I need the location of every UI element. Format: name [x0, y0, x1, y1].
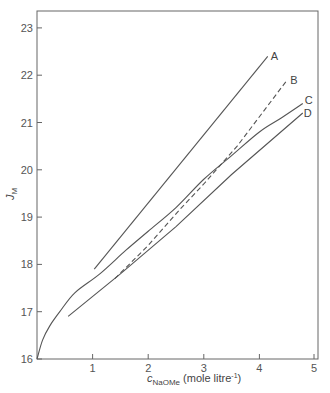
y-tick-label: 19 — [21, 211, 33, 223]
x-axis-title: cNaOMe(mole litre-1) — [147, 372, 241, 387]
series-line-b — [115, 80, 287, 279]
series-lines — [37, 56, 303, 359]
series-label-b: B — [290, 74, 297, 86]
series-label-d: D — [304, 107, 312, 119]
y-tick-label: 23 — [21, 22, 33, 34]
series-line-d — [68, 113, 303, 316]
y-axis-title: JM — [4, 188, 19, 202]
series-labels: ABCD — [271, 50, 313, 119]
y-tick-label: 18 — [21, 258, 33, 270]
y-tick-label: 20 — [21, 164, 33, 176]
series-label-c: C — [305, 94, 313, 106]
series-line-a — [94, 56, 267, 269]
y-tick-label: 17 — [21, 306, 33, 318]
y-tick-label: 22 — [21, 69, 33, 81]
x-tick-label: 4 — [256, 362, 262, 374]
y-tick-label: 21 — [21, 117, 33, 129]
y-axis-ticks: 1617181920212223 — [21, 22, 42, 365]
x-tick-label: 1 — [90, 362, 96, 374]
chart: 1617181920212223 12345 ABCD cNaOMe(mole … — [0, 0, 330, 393]
x-tick-label: 5 — [311, 362, 317, 374]
series-label-a: A — [271, 50, 279, 62]
y-tick-label: 16 — [21, 353, 33, 365]
x-axis-ticks: 12345 — [90, 354, 318, 374]
